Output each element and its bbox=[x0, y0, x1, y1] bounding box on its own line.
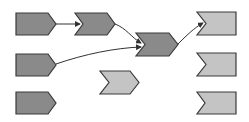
pentagon-1-shape[interactable] bbox=[16, 13, 56, 35]
connector-group bbox=[56, 23, 203, 64]
notched-3-shape[interactable] bbox=[197, 92, 236, 114]
chevron-2-shape[interactable] bbox=[136, 33, 178, 56]
flow-diagram bbox=[0, 0, 249, 122]
node-group bbox=[16, 12, 236, 114]
connector-pentagon-2-to-chevron-2[interactable] bbox=[56, 47, 141, 64]
chevron-3-shape[interactable] bbox=[100, 71, 139, 94]
diagram-canvas bbox=[0, 0, 249, 122]
pentagon-3-shape[interactable] bbox=[16, 92, 56, 114]
pentagon-2-shape[interactable] bbox=[16, 54, 56, 76]
chevron-1-shape[interactable] bbox=[75, 13, 115, 35]
notched-2-shape[interactable] bbox=[197, 53, 236, 76]
